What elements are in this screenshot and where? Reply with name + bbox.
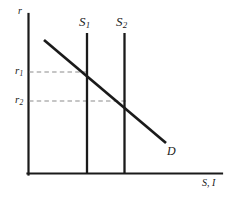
- figure-canvas: [0, 0, 235, 198]
- r1-tick-label: r1: [15, 65, 23, 76]
- y-axis-label: r: [18, 6, 22, 16]
- supply-demand-figure: r r1 r2 S1 S2 D S, I: [0, 0, 235, 198]
- s2-base: S: [116, 14, 123, 29]
- s2-subscript: 2: [123, 20, 127, 30]
- s1-base: S: [79, 14, 86, 29]
- s1-subscript: 1: [86, 20, 90, 30]
- s2-curve-label: S2: [116, 15, 127, 28]
- r2-tick-label: r2: [15, 94, 23, 105]
- x-axis-label: S, I: [202, 178, 215, 188]
- r2-subscript: 2: [19, 98, 23, 107]
- r1-subscript: 1: [19, 69, 23, 78]
- s1-curve-label: S1: [79, 15, 90, 28]
- demand-curve: [44, 40, 166, 143]
- demand-curve-label: D: [167, 145, 176, 157]
